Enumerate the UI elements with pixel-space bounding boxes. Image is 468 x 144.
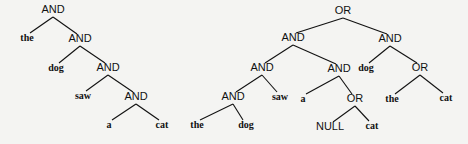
tree-edge <box>355 106 369 121</box>
tree-edge <box>200 104 233 120</box>
operator-node: AND <box>124 90 147 102</box>
word-leaf: dog <box>48 62 64 73</box>
word-leaf: dog <box>358 62 374 73</box>
operator-node: AND <box>221 90 244 102</box>
word-leaf: a <box>107 119 112 130</box>
word-leaf: the <box>190 119 204 130</box>
operator-node: OR <box>412 61 429 73</box>
tree-edge <box>262 75 277 92</box>
word-leaf: the <box>20 32 34 43</box>
word-leaf: a <box>301 93 306 104</box>
tree-edge <box>395 75 420 94</box>
operator-node: AND <box>378 32 401 44</box>
tree-edge <box>369 46 390 63</box>
word-leaf: saw <box>272 91 289 102</box>
word-leaf: cat <box>366 120 379 131</box>
word-leaf: the <box>385 93 399 104</box>
tree-edge <box>112 104 136 120</box>
word-leaf: dog <box>238 119 254 130</box>
tree-edge <box>233 104 243 120</box>
tree-edge <box>30 17 53 33</box>
tree-edge <box>306 76 339 94</box>
operator-node: OR <box>347 92 364 104</box>
tree-nodes: ANDtheANDdogANDsawANDacatORANDANDANDANDd… <box>20 3 453 132</box>
word-leaf: cat <box>156 119 169 130</box>
operator-node: AND <box>327 62 350 74</box>
tree-edge <box>136 104 159 120</box>
operator-node: AND <box>281 31 304 43</box>
operator-node: AND <box>41 3 64 15</box>
tree-edge <box>86 75 108 91</box>
operator-node: NULL <box>316 120 344 132</box>
operator-node: AND <box>68 32 91 44</box>
and-or-tree-diagram: ANDtheANDdogANDsawANDacatORANDANDANDANDd… <box>0 0 468 144</box>
operator-node: AND <box>96 61 119 73</box>
tree-edge <box>420 75 443 93</box>
word-leaf: cat <box>440 92 453 103</box>
word-leaf: saw <box>75 90 92 101</box>
operator-node: AND <box>250 61 273 73</box>
tree-edge <box>59 46 80 63</box>
operator-node: OR <box>335 4 352 16</box>
